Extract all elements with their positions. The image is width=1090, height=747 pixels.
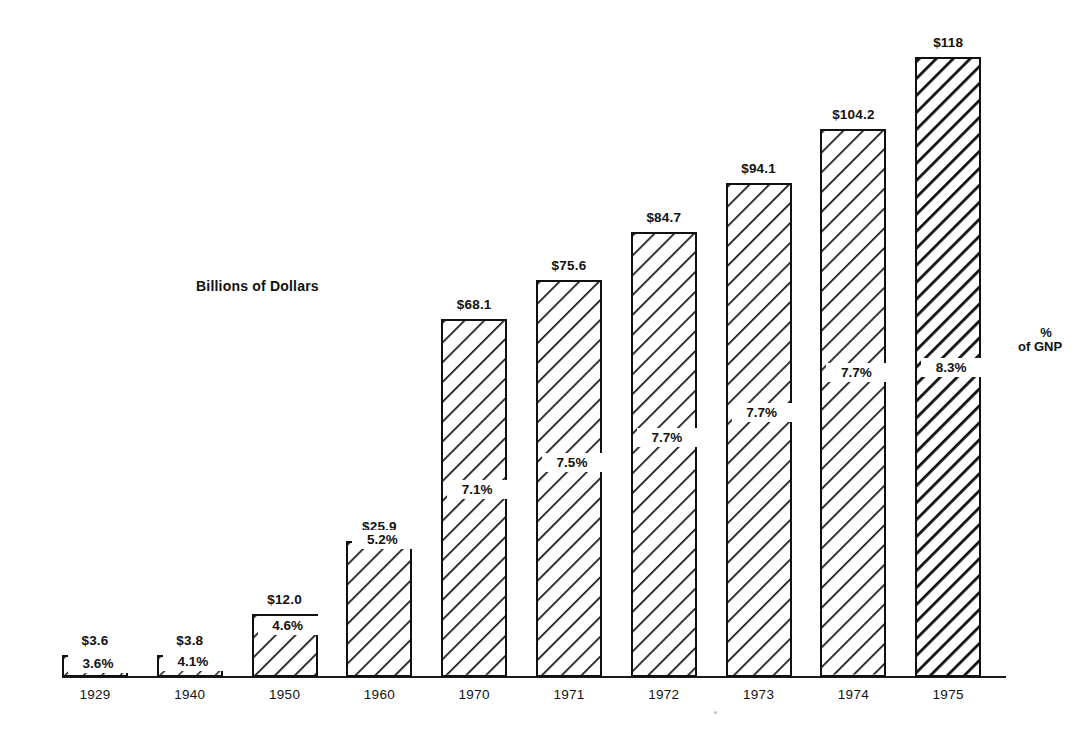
percent-label-1929: 3.6%	[68, 654, 128, 673]
bar-1971	[536, 280, 602, 677]
axis-title-billions-of-dollars: Billions of Dollars	[196, 278, 319, 294]
percent-label-1960: 5.2%	[352, 530, 412, 549]
of-gnp-text: of GNP	[1018, 340, 1062, 354]
year-label-1970: 1970	[424, 687, 524, 702]
value-label-1974: $104.2	[798, 107, 908, 122]
year-label-1975: 1975	[898, 687, 998, 702]
value-label-1975: $118	[893, 35, 1003, 50]
bar-hatch-fill	[822, 131, 884, 675]
scan-speck	[714, 711, 717, 714]
plot-area: Billions of Dollars % of GNP $3.63.6%192…	[0, 0, 1090, 747]
percent-label-1971: 7.5%	[542, 453, 602, 472]
bar-hatch-fill	[728, 185, 790, 675]
percent-label-1950: 4.6%	[258, 616, 318, 635]
bar-hatch-fill	[348, 543, 410, 675]
percent-label-1975: 8.3%	[921, 358, 981, 377]
year-label-1974: 1974	[803, 687, 903, 702]
bar-1960	[346, 541, 412, 677]
bar-chart: Billions of Dollars % of GNP $3.63.6%192…	[0, 0, 1090, 747]
value-label-1971: $75.6	[514, 258, 624, 273]
year-label-1940: 1940	[140, 687, 240, 702]
bar-hatch-fill	[633, 234, 695, 675]
year-label-1972: 1972	[614, 687, 714, 702]
year-label-1950: 1950	[235, 687, 335, 702]
value-label-1940: $3.8	[135, 633, 245, 648]
percent-label-1940: 4.1%	[163, 652, 223, 671]
percent-label-1970: 7.1%	[447, 480, 507, 499]
value-label-1950: $12.0	[230, 592, 340, 607]
percent-label-1974: 7.7%	[826, 363, 886, 382]
percent-of-gnp-annotation: % of GNP	[1018, 326, 1062, 354]
year-label-1973: 1973	[709, 687, 809, 702]
percent-symbol: %	[1030, 326, 1062, 340]
value-label-1929: $3.6	[40, 633, 150, 648]
year-label-1960: 1960	[329, 687, 429, 702]
bar-1972	[631, 232, 697, 677]
percent-label-1973: 7.7%	[732, 403, 792, 422]
value-label-1972: $84.7	[609, 210, 719, 225]
value-label-1973: $94.1	[704, 161, 814, 176]
bar-1973	[726, 183, 792, 677]
year-label-1929: 1929	[45, 687, 145, 702]
value-label-1970: $68.1	[419, 297, 529, 312]
bar-hatch-fill	[538, 282, 600, 675]
year-label-1971: 1971	[519, 687, 619, 702]
percent-label-1972: 7.7%	[637, 428, 697, 447]
bar-1974	[820, 129, 886, 677]
